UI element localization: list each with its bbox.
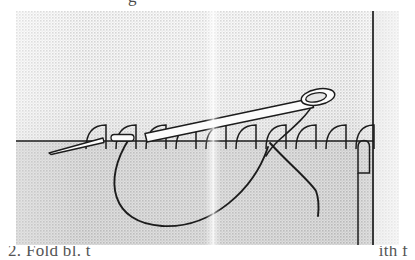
thread-segment-left xyxy=(111,135,134,142)
illustration-svg xyxy=(16,11,399,245)
scanned-page: g xyxy=(0,0,415,260)
sewing-illustration xyxy=(16,11,399,245)
top-caption-fragment: g xyxy=(0,0,415,9)
bottom-caption-right: ith f xyxy=(379,246,408,260)
bottom-caption-fragment: 2. Fold bl. t ith f xyxy=(0,246,415,260)
bottom-caption-left: 2. Fold bl. t xyxy=(8,246,91,260)
top-caption-text: g xyxy=(128,0,137,7)
bottom-caption-row: 2. Fold bl. t ith f xyxy=(8,246,408,260)
